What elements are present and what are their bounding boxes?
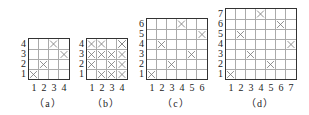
y-axis-label: 1 — [74, 69, 84, 79]
grid-cell — [117, 39, 127, 49]
y-axis-label: 2 — [16, 59, 26, 69]
y-axis-label: 1 — [16, 69, 26, 79]
grid-cell — [49, 59, 59, 69]
x-mark-icon — [187, 50, 196, 59]
y-axis-label: 1 — [134, 69, 144, 79]
y-axis-label: 3 — [16, 49, 26, 59]
grid-cell — [286, 19, 296, 29]
grid-cell — [39, 39, 49, 49]
grid-cell — [276, 59, 286, 69]
grid-d — [225, 8, 297, 80]
grid-cell — [167, 39, 177, 49]
grid-cell — [197, 29, 207, 39]
x-axis-label: 2 — [157, 83, 167, 93]
x-mark-icon — [49, 39, 58, 49]
x-mark-icon — [147, 70, 156, 79]
grid-cell — [87, 49, 97, 59]
x-axis-label: 4 — [256, 83, 266, 93]
y-axis-label: 2 — [213, 59, 223, 69]
x-mark-icon — [97, 70, 106, 79]
grid-cell — [59, 49, 69, 59]
grid-cell — [39, 69, 49, 79]
grid-cell — [107, 49, 117, 59]
grid-cell — [286, 9, 296, 19]
grid-cell — [147, 39, 157, 49]
x-mark-icon — [197, 30, 207, 39]
y-axis-label: 6 — [213, 19, 223, 29]
grid-cell — [187, 69, 197, 79]
grid-cell — [177, 69, 187, 79]
grid-cell — [97, 49, 107, 59]
grid-cell — [97, 59, 107, 69]
y-axis-label: 3 — [134, 49, 144, 59]
grid-cell — [226, 69, 236, 79]
grid-cell — [276, 29, 286, 39]
y-axis-label: 1 — [213, 69, 223, 79]
grid-cell — [177, 29, 187, 39]
grid-cell — [236, 29, 246, 39]
grid-cell — [266, 29, 276, 39]
y-axis-label: 5 — [134, 29, 144, 39]
grid-cell — [39, 49, 49, 59]
grid-cell — [117, 49, 127, 59]
grid-cell — [157, 69, 167, 79]
grid-cell — [177, 39, 187, 49]
grid-cell — [256, 69, 266, 79]
x-axis-label: 3 — [107, 83, 117, 93]
x-axis-label: 6 — [197, 83, 207, 93]
panel-caption: （d） — [240, 95, 280, 110]
grid-cell — [147, 29, 157, 39]
x-mark-icon — [107, 70, 116, 79]
x-mark-icon — [167, 60, 176, 69]
x-mark-icon — [107, 50, 116, 59]
grid-cell — [197, 49, 207, 59]
x-mark-icon — [87, 39, 96, 49]
x-axis-label: 3 — [167, 83, 177, 93]
x-axis-label: 2 — [39, 83, 49, 93]
x-axis-label: 1 — [29, 83, 39, 93]
grid-cell — [256, 9, 266, 19]
x-mark-icon — [87, 50, 96, 59]
x-mark-icon — [286, 40, 296, 49]
grid-cell — [236, 9, 246, 19]
grid-cell — [187, 29, 197, 39]
panel-caption: （c） — [156, 95, 196, 110]
x-axis-label: 5 — [187, 83, 197, 93]
grid-cell — [256, 39, 266, 49]
grid-cell — [266, 19, 276, 29]
grid-cell — [167, 59, 177, 69]
grid-cell — [39, 59, 49, 69]
grid-cell — [226, 59, 236, 69]
x-mark-icon — [107, 60, 116, 69]
y-axis-label: 2 — [134, 59, 144, 69]
x-mark-icon — [117, 70, 127, 79]
grid-cell — [226, 39, 236, 49]
grid-cell — [246, 9, 256, 19]
grid-cell — [266, 59, 276, 69]
x-axis-label: 2 — [97, 83, 107, 93]
grid-cell — [246, 29, 256, 39]
grid-cell — [256, 29, 266, 39]
panel-caption: （b） — [86, 95, 126, 110]
grid-cell — [226, 29, 236, 39]
grid-cell — [276, 19, 286, 29]
y-axis-label: 7 — [213, 9, 223, 19]
grid-cell — [177, 59, 187, 69]
y-axis-label: 5 — [213, 29, 223, 39]
grid-cell — [246, 39, 256, 49]
x-axis-label: 7 — [286, 83, 296, 93]
grid-cell — [286, 39, 296, 49]
x-axis-label: 3 — [49, 83, 59, 93]
grid-cell — [197, 69, 207, 79]
x-mark-icon — [59, 50, 69, 59]
x-axis-label: 4 — [177, 83, 187, 93]
x-axis-label: 1 — [87, 83, 97, 93]
grid-cell — [117, 59, 127, 69]
grid-cell — [197, 59, 207, 69]
x-mark-icon — [29, 70, 38, 79]
y-axis-label: 4 — [74, 39, 84, 49]
grid-cell — [59, 59, 69, 69]
x-mark-icon — [97, 50, 106, 59]
grid-cell — [197, 39, 207, 49]
grid-cell — [49, 49, 59, 59]
